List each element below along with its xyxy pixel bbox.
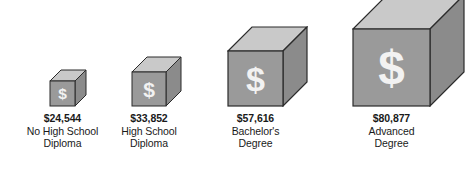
chart-bar-group: $ $33,852 High School Diploma [131,56,182,171]
cube-icon: $ [49,69,87,111]
bar-label-block: $80,877 Advanced Degree [330,112,454,150]
bar-label-block: $33,852 High School Diploma [87,112,211,150]
chart-bar-group: $ $80,877 Advanced Degree [352,0,465,171]
cube-icon: $ [227,26,308,111]
chart-bar-group: $ $57,616 Bachelor's Degree [227,26,308,171]
chart-bar-group: $ $24,544 No High School Diploma [49,69,87,171]
bar-value-label: $57,616 [194,112,318,125]
cube-icon: $ [352,0,465,111]
bar-category-line-2: Degree [330,137,454,150]
svg-text:$: $ [58,85,67,102]
svg-text:$: $ [378,41,405,94]
bar-label-block: $57,616 Bachelor's Degree [194,112,318,150]
bar-category-line-1: Advanced [330,125,454,138]
education-earnings-cube-chart: $ $24,544 No High School Diploma $ $33,8… [0,0,469,171]
svg-text:$: $ [246,60,265,98]
bar-value-label: $80,877 [330,112,454,125]
cube-icon: $ [131,56,182,111]
bar-category-line-1: Bachelor's [194,125,318,138]
bar-category-line-2: Diploma [87,137,211,150]
bar-value-label: $33,852 [87,112,211,125]
svg-text:$: $ [143,78,155,101]
bar-category-line-1: High School [87,125,211,138]
bar-category-line-2: Degree [194,137,318,150]
